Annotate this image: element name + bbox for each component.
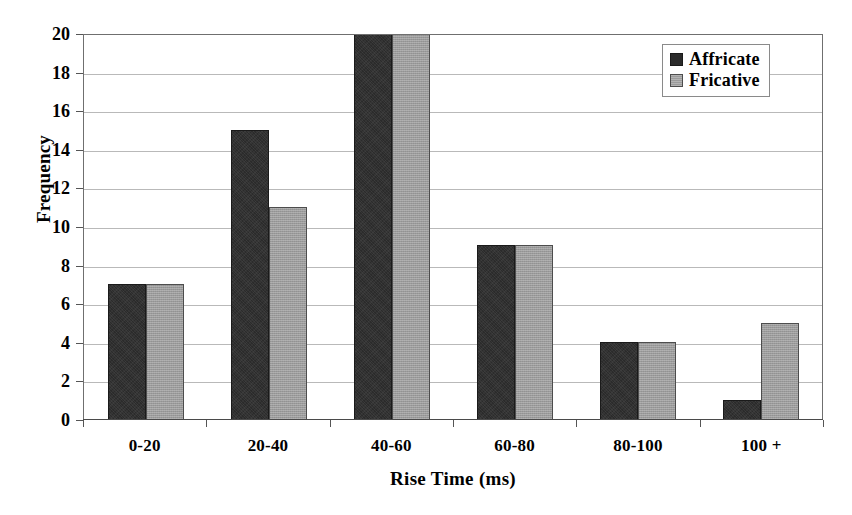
bar [600, 342, 638, 419]
y-tick-mark [76, 343, 83, 344]
x-tick-label: 80-100 [576, 436, 699, 456]
x-axis-title: Rise Time (ms) [83, 468, 823, 490]
legend-swatch-icon [670, 74, 683, 87]
bar [231, 130, 269, 420]
y-tick-mark [76, 111, 83, 112]
x-tick-label: 0-20 [83, 436, 206, 456]
y-tick-mark [76, 266, 83, 267]
y-tick-mark [76, 188, 83, 189]
x-tick-mark [83, 420, 84, 427]
bar [354, 34, 392, 419]
bar [146, 284, 184, 419]
x-axis-tick-labels: 0-2020-4040-6060-8080-100100 + [83, 436, 823, 456]
bar [515, 245, 553, 419]
bar-group [207, 35, 330, 419]
y-axis-tick-labels: 02468101214161820 [34, 34, 70, 420]
y-tick-label: 0 [34, 411, 70, 429]
y-tick-label: 4 [34, 334, 70, 352]
bar [761, 323, 799, 420]
bar [477, 245, 515, 419]
x-tick-mark [330, 420, 331, 427]
bar [392, 34, 430, 419]
bar-chart: Frequency 02468101214161820 0-2020-4040-… [0, 0, 852, 515]
y-tick-label: 8 [34, 257, 70, 275]
y-tick-mark [76, 150, 83, 151]
y-tick-label: 14 [34, 141, 70, 159]
x-tick-label: 100 + [700, 436, 823, 456]
y-tick-mark [76, 304, 83, 305]
bar-group [84, 35, 207, 419]
x-tick-mark [453, 420, 454, 427]
x-tick-mark [823, 420, 824, 427]
legend-label: Affricate [689, 50, 760, 69]
bar [269, 207, 307, 419]
bar-group [453, 35, 576, 419]
legend-swatch-icon [670, 53, 683, 66]
y-tick-label: 16 [34, 102, 70, 120]
y-tick-label: 12 [34, 179, 70, 197]
x-tick-label: 40-60 [330, 436, 453, 456]
chart-legend: AffricateFricative [662, 44, 770, 97]
legend-label: Fricative [689, 71, 760, 90]
y-tick-mark [76, 420, 83, 421]
y-tick-label: 10 [34, 218, 70, 236]
x-tick-label: 20-40 [206, 436, 329, 456]
y-tick-label: 2 [34, 372, 70, 390]
legend-item: Affricate [670, 50, 760, 69]
bar-group [330, 35, 453, 419]
bar [638, 342, 676, 419]
x-tick-label: 60-80 [453, 436, 576, 456]
x-tick-mark [206, 420, 207, 427]
x-tick-mark [576, 420, 577, 427]
bar [723, 400, 761, 419]
y-tick-label: 6 [34, 295, 70, 313]
y-tick-label: 18 [34, 64, 70, 82]
y-tick-label: 20 [34, 25, 70, 43]
y-tick-mark [76, 73, 83, 74]
legend-item: Fricative [670, 71, 760, 90]
x-tick-mark [700, 420, 701, 427]
y-tick-mark [76, 34, 83, 35]
bar [108, 284, 146, 419]
y-tick-mark [76, 381, 83, 382]
y-tick-mark [76, 227, 83, 228]
